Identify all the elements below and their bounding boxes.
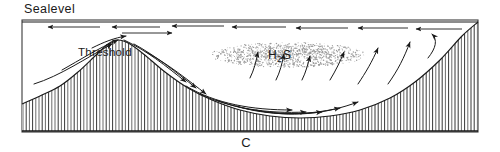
- h2s-label-tail: S: [283, 48, 291, 62]
- sealevel-label: Sealevel: [24, 2, 75, 16]
- diagram-canvas: Sealevel Threshold H 2 S C: [0, 0, 500, 152]
- figure-panel: Sealevel Threshold H 2 S C: [0, 0, 500, 152]
- h2s-label-main: H: [268, 48, 277, 62]
- h2s-label-subscript: 2: [277, 54, 282, 64]
- panel-label: C: [241, 135, 250, 150]
- threshold-label: Threshold: [78, 46, 132, 58]
